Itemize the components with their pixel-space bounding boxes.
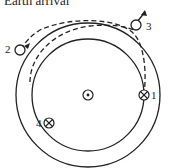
- point-4-crossed-circle-icon: [44, 118, 54, 128]
- point-1-crossed-circle-icon: [139, 90, 149, 100]
- dashed-transfer-1-to-3: [22, 21, 145, 95]
- dashed-transfer-4-to-2: [30, 25, 134, 82]
- orbit-diagram: 1 2 3 4: [0, 0, 178, 168]
- point-3-label: 3: [146, 20, 152, 32]
- sun-dot-icon: [83, 90, 93, 100]
- point-2-label: 2: [5, 43, 11, 55]
- point-1-label: 1: [151, 89, 157, 101]
- point-2-open-circle-icon: [15, 45, 25, 55]
- point-4-label: 4: [36, 117, 42, 129]
- arrowhead-3-icon: [141, 10, 147, 16]
- point-3-open-circle-icon: [131, 20, 141, 30]
